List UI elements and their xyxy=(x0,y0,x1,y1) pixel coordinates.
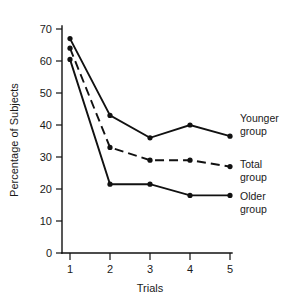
y-tick-label: 40 xyxy=(40,119,52,131)
legend-label-line1: Total xyxy=(240,158,262,170)
data-point xyxy=(147,158,152,163)
data-point xyxy=(67,57,72,62)
data-point xyxy=(227,134,232,139)
data-series-group xyxy=(67,36,232,198)
y-tick-label: 0 xyxy=(46,247,52,259)
data-point xyxy=(187,158,192,163)
data-point xyxy=(187,193,192,198)
x-axis-ticks xyxy=(70,253,230,260)
data-point xyxy=(107,113,112,118)
series-line-1 xyxy=(70,39,230,138)
legend-label-line2: group xyxy=(240,125,267,137)
data-point xyxy=(187,122,192,127)
data-point xyxy=(147,182,152,187)
data-point xyxy=(67,36,72,41)
y-tick-label: 10 xyxy=(40,215,52,227)
legend-label-line2: group xyxy=(240,171,267,183)
y-tick-label: 30 xyxy=(40,151,52,163)
data-point xyxy=(227,193,232,198)
y-tick-label: 60 xyxy=(40,55,52,67)
y-tick-label: 70 xyxy=(40,23,52,35)
line-chart-figure: 0 10 20 30 40 50 60 70 1 2 3 4 5 Trials xyxy=(0,0,290,297)
x-tick-label: 5 xyxy=(227,263,233,275)
x-axis-title: Trials xyxy=(137,282,164,294)
legend-label-line1: Older xyxy=(240,190,266,202)
data-point xyxy=(107,145,112,150)
series-line-3 xyxy=(70,59,230,195)
y-axis-tick-labels: 0 10 20 30 40 50 60 70 xyxy=(40,23,52,259)
data-point xyxy=(67,46,72,51)
x-tick-label: 3 xyxy=(147,263,153,275)
x-tick-label: 1 xyxy=(67,263,73,275)
x-axis-tick-labels: 1 2 3 4 5 xyxy=(67,263,233,275)
data-point xyxy=(107,182,112,187)
x-tick-label: 2 xyxy=(107,263,113,275)
y-tick-label: 50 xyxy=(40,87,52,99)
data-point xyxy=(147,135,152,140)
chart-plot-area: 0 10 20 30 40 50 60 70 1 2 3 4 5 Trials xyxy=(0,0,290,297)
y-axis-title: Percentage of Subjects xyxy=(8,83,20,197)
chart-legend: YoungergroupTotalgroupOldergroup xyxy=(240,112,279,215)
series-line-2 xyxy=(70,48,230,166)
x-tick-label: 4 xyxy=(187,263,193,275)
legend-label-line1: Younger xyxy=(240,112,279,124)
data-point xyxy=(227,164,232,169)
legend-label-line2: group xyxy=(240,203,267,215)
y-tick-label: 20 xyxy=(40,183,52,195)
y-axis-ticks xyxy=(56,29,62,253)
